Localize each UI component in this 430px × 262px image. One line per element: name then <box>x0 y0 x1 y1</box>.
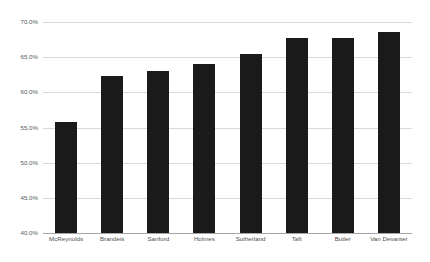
bars-layer <box>43 22 412 233</box>
bar[interactable] <box>332 38 354 234</box>
bar[interactable] <box>286 38 308 234</box>
x-axis-line <box>43 233 412 234</box>
y-axis-tick-label: 65.0% <box>0 54 38 60</box>
y-axis-tick-label: 50.0% <box>0 160 38 166</box>
x-axis-tick-label: McReynolds <box>49 236 83 242</box>
y-axis-tick-label: 55.0% <box>0 124 38 130</box>
bar-chart: 70.0%65.0%60.0%55.0%50.0%45.0%40.0% McRe… <box>0 0 430 262</box>
bar[interactable] <box>147 71 169 233</box>
x-axis-tick-label: Van Devanter <box>370 236 407 242</box>
x-axis-labels: McReynoldsBrandeisSanfordHolmesSutherlan… <box>43 236 412 250</box>
x-axis-tick-label: Taft <box>292 236 302 242</box>
y-axis-tick-label: 40.0% <box>0 230 38 236</box>
y-axis-tick-label: 70.0% <box>0 19 38 25</box>
x-axis-tick-label: Sutherland <box>236 236 266 242</box>
y-axis-tick-label: 45.0% <box>0 195 38 201</box>
y-axis-tick-label: 60.0% <box>0 89 38 95</box>
bar[interactable] <box>101 76 123 234</box>
bar[interactable] <box>240 54 262 233</box>
x-axis-tick-label: Brandeis <box>100 236 124 242</box>
bar[interactable] <box>378 32 400 233</box>
bar[interactable] <box>55 122 77 233</box>
x-axis-tick-label: Sanford <box>147 236 169 242</box>
x-axis-tick-label: Holmes <box>194 236 215 242</box>
bar[interactable] <box>193 64 215 233</box>
x-axis-tick-label: Butler <box>335 236 351 242</box>
